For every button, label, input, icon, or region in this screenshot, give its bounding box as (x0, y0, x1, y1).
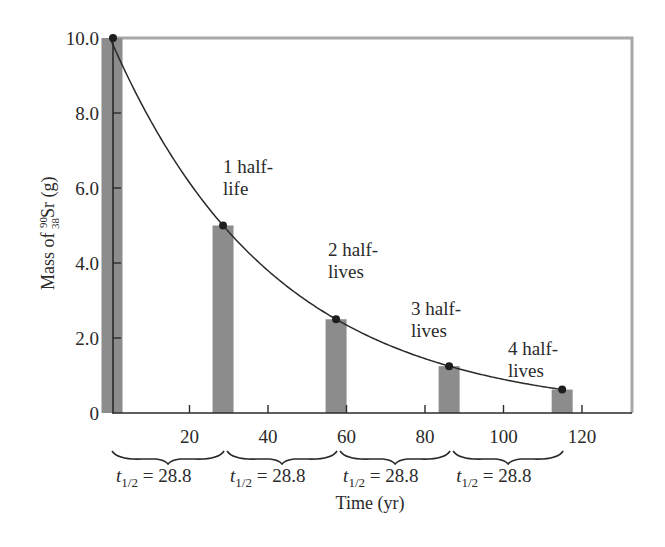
brace (112, 451, 224, 464)
annotation-line2: life (223, 178, 248, 199)
annotation-line2: lives (411, 320, 447, 341)
data-point (445, 362, 453, 370)
x-tick-label: 40 (259, 426, 278, 447)
bar (102, 38, 123, 413)
half-life-label: t1/2 = 28.8 (456, 465, 531, 490)
y-tick-label: 8.0 (75, 103, 99, 124)
x-tick-label: 20 (180, 426, 199, 447)
data-point (109, 34, 117, 42)
x-tick-label: 120 (568, 426, 597, 447)
annotation-line2: lives (508, 360, 544, 381)
bar (439, 366, 460, 413)
half-life-label: t1/2 = 28.8 (230, 465, 305, 490)
x-axis-title: Time (yr) (336, 493, 405, 514)
annotation-line1: 1 half- (223, 156, 273, 177)
y-axis-label: Mass of 9038Sr (g) (37, 176, 61, 290)
y-axis-title: Mass of 9038Sr (g) (37, 176, 61, 290)
decay-chart: 02.04.06.08.010.0 20406080100120 1 half-… (0, 0, 665, 547)
annotation-line2: lives (328, 261, 364, 282)
x-axis-ticks: 20406080100120 (180, 405, 596, 447)
bar (326, 319, 347, 413)
annotation-line1: 3 half- (411, 298, 461, 319)
brace (453, 451, 563, 464)
y-tick-label: 6.0 (75, 178, 99, 199)
bar (213, 226, 234, 414)
half-life-annotations: 1 half-life2 half-lives3 half-lives4 hal… (223, 156, 558, 381)
half-life-label: t1/2 = 28.8 (343, 465, 418, 490)
y-tick-label: 4.0 (75, 253, 99, 274)
annotation-line1: 2 half- (328, 239, 378, 260)
y-tick-label: 0 (90, 403, 100, 424)
data-point (558, 386, 566, 394)
x-tick-label: 80 (416, 426, 435, 447)
brace (340, 451, 450, 464)
y-tick-label: 10.0 (66, 28, 99, 49)
half-life-label: t1/2 = 28.8 (116, 465, 191, 490)
y-tick-label: 2.0 (75, 328, 99, 349)
bars (102, 38, 573, 413)
x-tick-label: 100 (489, 426, 518, 447)
data-point (332, 315, 340, 323)
annotation-line1: 4 half- (508, 338, 558, 359)
x-tick-label: 60 (337, 426, 356, 447)
half-life-brackets: t1/2 = 28.8t1/2 = 28.8t1/2 = 28.8t1/2 = … (112, 451, 563, 490)
brace (227, 451, 337, 464)
data-point (219, 222, 227, 230)
